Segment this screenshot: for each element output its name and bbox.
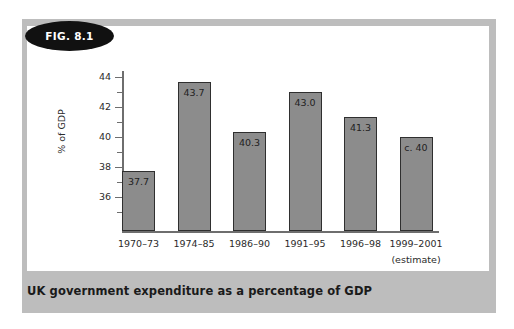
y-axis-major-tick — [115, 77, 122, 78]
bar-value-label: 41.3 — [345, 122, 376, 133]
y-axis-minor-tick — [117, 152, 122, 153]
figure-number-badge: FIG. 8.1 — [25, 21, 114, 51]
bar: 41.3 — [344, 117, 377, 231]
y-axis-tick-label-wrap: 38 — [87, 161, 111, 173]
bar: 43.7 — [178, 82, 211, 232]
x-axis-line — [122, 231, 439, 233]
y-axis-tick-label: 38 — [87, 161, 111, 172]
x-axis-tick-label: 1999–2001 — [386, 238, 446, 249]
y-axis-tick-label-wrap: 42 — [87, 101, 111, 113]
bar: 40.3 — [233, 132, 266, 231]
figure-caption: UK government expenditure as a percentag… — [27, 277, 489, 305]
y-axis-minor-tick — [117, 92, 122, 93]
x-axis-tick-label: 1996–98 — [331, 238, 391, 249]
y-axis-major-tick — [115, 137, 122, 138]
y-axis-major-tick — [115, 107, 122, 108]
y-axis-minor-tick — [117, 122, 122, 123]
bar: 37.7 — [122, 171, 155, 231]
bar: c. 40 — [400, 137, 433, 231]
figure-root: FIG. 8.1 % of GDP 3638404244 37.743.740.… — [0, 0, 514, 329]
y-axis-major-tick — [115, 197, 122, 198]
bar-value-label: c. 40 — [401, 142, 432, 153]
x-axis-tick-label: 1974–85 — [164, 238, 224, 249]
bar-value-label: 40.3 — [234, 137, 265, 148]
y-axis-tick-label: 40 — [87, 131, 111, 142]
y-axis-tick-label-wrap: 40 — [87, 131, 111, 143]
bar-value-label: 43.0 — [290, 97, 321, 108]
y-axis-tick-label: 42 — [87, 101, 111, 112]
x-axis-sublabel: (estimate) — [386, 254, 446, 265]
bar-value-label: 37.7 — [123, 176, 154, 187]
figure-number-label: FIG. 8.1 — [45, 30, 93, 42]
y-axis-title: % of GDP — [56, 92, 67, 172]
x-axis-tick-label: 1970–73 — [109, 238, 169, 249]
y-axis-major-tick — [115, 167, 122, 168]
y-axis-tick-label-wrap: 36 — [87, 191, 111, 203]
y-axis-tick-label: 44 — [87, 71, 111, 82]
x-axis-tick-label: 1991–95 — [275, 238, 335, 249]
y-axis-tick-label-wrap: 44 — [87, 71, 111, 83]
figure-caption-text: UK government expenditure as a percentag… — [27, 284, 372, 298]
x-axis-tick-label: 1986–90 — [220, 238, 280, 249]
bar-chart: % of GDP 3638404244 37.743.740.343.041.3… — [27, 26, 489, 271]
bar-value-label: 43.7 — [179, 87, 210, 98]
bar: 43.0 — [289, 92, 322, 231]
y-axis-tick-label: 36 — [87, 191, 111, 202]
